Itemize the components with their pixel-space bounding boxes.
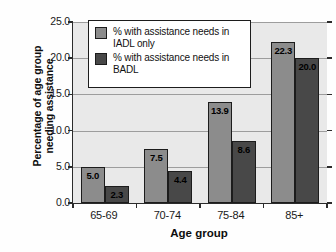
bar-65-69-series0: 5.0: [81, 167, 105, 203]
chart-legend: % with assistance needs in IADL only % w…: [88, 20, 251, 88]
x-tick-mark: [199, 203, 201, 208]
legend-label-badl-line2: BADL: [113, 64, 139, 75]
bar-value-label: 5.0: [87, 170, 99, 181]
x-tick-label-70-74: 70-74: [137, 209, 197, 221]
bar-value-label: 7.5: [150, 152, 162, 163]
bar-value-label: 4.4: [174, 174, 186, 185]
bar-70-74-series1: 4.4: [168, 171, 192, 203]
bar-value-label: 22.3: [275, 45, 292, 56]
bar-65-69-series1: 2.3: [105, 186, 129, 203]
bar-value-label: 8.6: [238, 144, 250, 155]
y-tick-label: 5.0: [32, 160, 70, 172]
y-axis-tick-labels: 0.05.010.015.020.025.0: [28, 0, 70, 252]
y-tick-mark-right: [327, 202, 332, 204]
legend-label-iadl-line2: IADL only: [113, 38, 155, 49]
y-tick-mark-right: [327, 94, 332, 96]
bar-75-84-series1: 8.6: [232, 141, 256, 203]
bar-75-84-series0: 13.9: [208, 102, 232, 203]
y-tick-mark-right: [327, 166, 332, 168]
legend-item-iadl: % with assistance needs in IADL only: [95, 26, 246, 49]
x-tick-mark: [136, 203, 138, 208]
y-tick-label: 0.0: [32, 196, 70, 208]
bar-value-label: 20.0: [299, 61, 316, 72]
legend-swatch-badl-icon: [95, 53, 107, 65]
legend-swatch-iadl-icon: [95, 27, 107, 39]
x-tick-mark-origin: [72, 203, 74, 208]
x-tick-label-75-84: 75-84: [201, 209, 261, 221]
x-tick-label-85plus: 85+: [264, 209, 324, 221]
x-tick-mark: [326, 203, 328, 208]
y-tick-label: 15.0: [32, 87, 70, 99]
bar-value-label: 13.9: [211, 105, 228, 116]
x-axis-title: Age group: [72, 227, 326, 239]
bar-85plus-series0: 22.3: [271, 42, 295, 203]
legend-label-badl-line1: % with assistance needs in: [113, 52, 229, 63]
chart-figure: Percentage of age group needing assistan…: [0, 0, 336, 252]
x-tick-label-65-69: 65-69: [74, 209, 134, 221]
y-tick-mark-right: [327, 57, 332, 59]
y-tick-label: 10.0: [32, 124, 70, 136]
y-tick-label: 20.0: [32, 51, 70, 63]
bar-value-label: 2.3: [111, 189, 123, 200]
y-tick-mark-right: [327, 130, 332, 132]
x-tick-mark: [263, 203, 265, 208]
legend-item-badl: % with assistance needs in BADL: [95, 52, 246, 75]
bar-85plus-series1: 20.0: [295, 58, 319, 203]
y-tick-label: 25.0: [32, 15, 70, 27]
legend-label-iadl-line1: % with assistance needs in: [113, 26, 229, 37]
bar-70-74-series0: 7.5: [144, 149, 168, 203]
y-tick-mark-right: [327, 21, 332, 23]
